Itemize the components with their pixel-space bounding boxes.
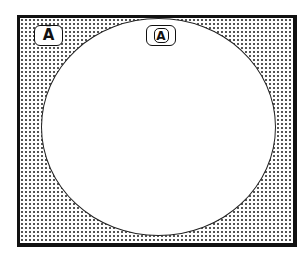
badge-label-a-circled: A	[154, 28, 169, 43]
inscribed-ellipse	[41, 18, 276, 236]
badge-label-a-macron: Ā	[43, 28, 55, 43]
a-circled-badge-icon: A	[146, 25, 176, 46]
a-macron-badge-icon: Ā	[34, 25, 63, 46]
diagram-frame: Ā A	[17, 15, 297, 247]
